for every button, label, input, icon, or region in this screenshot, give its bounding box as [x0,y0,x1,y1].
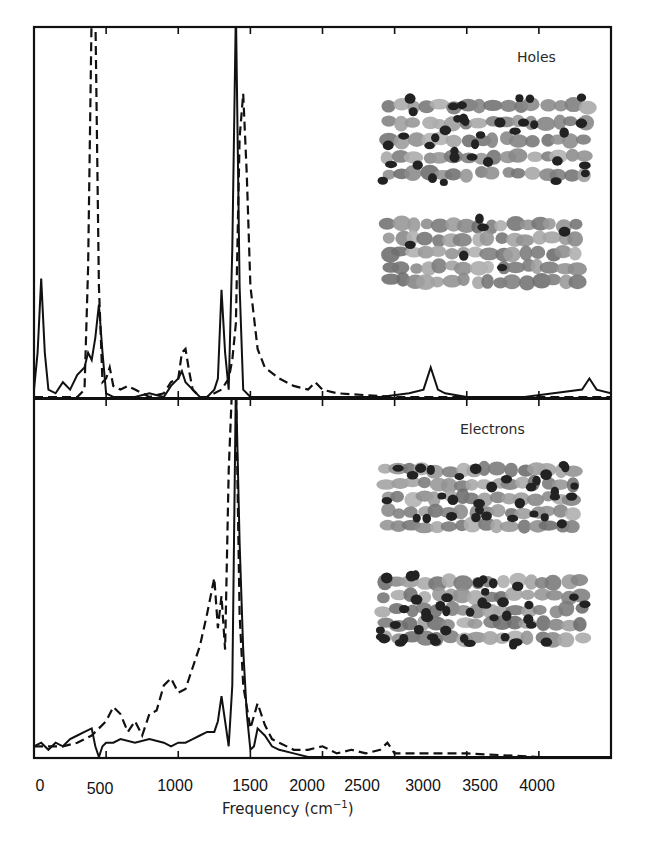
x-tick-label-3500: 3500 [462,777,498,795]
holes-orbital-inset-1 [378,93,597,186]
holes-orbital-inset-2 [379,213,587,290]
panel-holes [34,9,611,398]
panel-label-electrons: Electrons [460,421,525,437]
molecule-insets [374,93,597,649]
x-axis-title-main: Frequency (cm [222,800,333,818]
spectrum-chart [0,0,660,844]
electrons-orbital-inset-1 [376,461,583,534]
panel-label-holes: Holes [517,49,556,65]
x-tick-label-3000: 3000 [405,777,441,795]
panel-electrons [34,381,611,757]
x-tick-label-0: 0 [36,777,45,795]
series-dashed [34,381,611,757]
x-axis-title-close: ) [348,800,354,818]
x-axis-title-exponent: −1 [333,799,348,810]
x-tick-label-2500: 2500 [344,777,380,795]
x-tick-label-500: 500 [87,780,114,798]
x-tick-label-2000: 2000 [289,777,325,795]
x-tick-label-1000: 1000 [157,777,193,795]
series-solid [34,381,611,757]
x-tick-label-1500: 1500 [232,777,268,795]
x-axis-title: Frequency (cm−1) [222,799,354,818]
x-tick-label-4000: 4000 [519,777,555,795]
series-dashed [34,9,611,398]
series-solid [34,9,611,398]
electrons-orbital-inset-2 [374,570,591,649]
